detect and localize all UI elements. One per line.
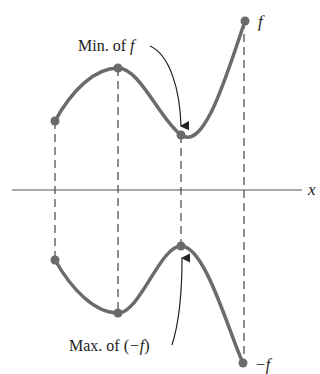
point-f-1 [51,117,60,126]
annotation-max-of-neg-f: Max. of (−f) [69,337,150,355]
annotation-max-prefix: Max. of ( [69,337,129,355]
label-neg-f: −f [255,356,273,374]
point-neg-f-2 [114,309,123,318]
point-f-2 [114,64,123,73]
point-neg-f-4 [239,359,248,368]
x-axis-label: x [307,180,316,199]
points-f [51,17,250,140]
dashed-guides [55,21,244,363]
point-neg-f-1 [51,256,60,265]
point-neg-f-max [177,242,186,251]
annotation-min-var: f [130,37,137,55]
diagram-canvas: x f −f Min. of f Max. of (−f) [0,0,320,374]
annotation-min-prefix: Min. of [78,37,130,54]
label-f: f [258,12,265,31]
arrow-max [172,258,182,345]
annotation-max-suffix: ) [144,337,149,355]
point-f-4 [241,17,250,26]
arrow-min [150,46,181,126]
annotation-min-of-f: Min. of f [78,37,137,55]
point-f-min [177,131,186,140]
